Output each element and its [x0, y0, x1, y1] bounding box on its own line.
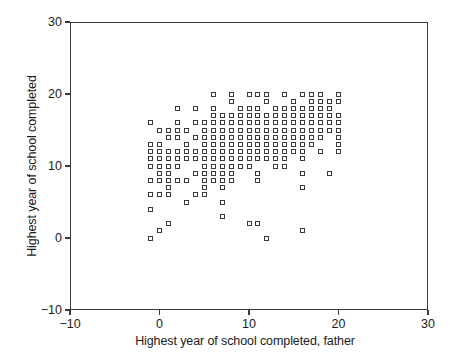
x-axis-tick-mark: [159, 310, 160, 315]
x-axis-tick-label: 30: [408, 318, 448, 330]
x-axis-tick-label: 20: [319, 318, 359, 330]
y-axis-title: Highest year of school completed: [22, 16, 42, 316]
plot-area: [70, 22, 428, 310]
y-axis-title-wrap: Highest year of school completed: [2, 16, 22, 316]
x-axis-tick-mark: [69, 310, 70, 315]
x-axis-tick-label: 10: [229, 318, 269, 330]
x-axis-tick-mark: [338, 310, 339, 315]
x-axis-tick-label: −10: [50, 318, 90, 330]
scatter-plot-figure: Highest year of school completed Highest…: [0, 0, 451, 359]
x-axis-tick-mark: [427, 310, 428, 315]
x-axis-tick-mark: [248, 310, 249, 315]
x-axis-title: Highest year of school completed, father: [60, 334, 430, 348]
x-axis-tick-label: 0: [140, 318, 180, 330]
